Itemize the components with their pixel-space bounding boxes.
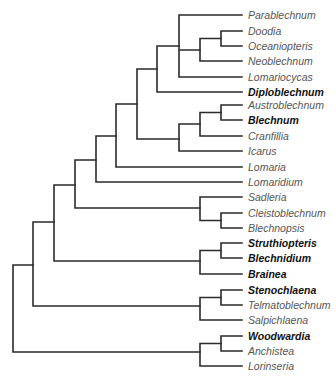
taxon-label-brainea: Brainea xyxy=(248,268,287,280)
branch-stenochlaena-telmatoblechnum xyxy=(221,290,242,305)
taxon-label-blechnidium: Blechnidium xyxy=(248,252,311,264)
taxon-label-neoblechnum: Neoblechnum xyxy=(248,55,313,67)
branch-icarus xyxy=(179,124,242,151)
tree-branches xyxy=(13,15,242,366)
taxon-label-cleistoblechnum: Cleistoblechnum xyxy=(248,207,326,219)
taxon-label-lorinseria: Lorinseria xyxy=(248,360,294,372)
taxon-label-stenochlaena: Stenochlaena xyxy=(248,284,316,296)
taxon-label-sadleria: Sadleria xyxy=(248,191,287,203)
taxon-label-salpichlaena: Salpichlaena xyxy=(248,314,308,326)
taxon-label-lomariocycas: Lomariocycas xyxy=(248,71,313,83)
taxon-label-austroblechnum: Austroblechnum xyxy=(248,99,324,111)
branch-doodia-oceaniopteris xyxy=(221,31,242,46)
taxon-label-parablechnum: Parablechnum xyxy=(248,9,316,21)
branch-node-33 xyxy=(33,222,200,306)
branch-node-54 xyxy=(54,185,200,261)
branch-lomaridium xyxy=(96,136,242,182)
taxon-label-oceaniopteris: Oceaniopteris xyxy=(248,40,313,52)
branch-woodwardia-anchistea xyxy=(221,336,242,351)
branch-cleistoblechnum-blechnopsis xyxy=(221,213,242,228)
branch-austroblechnum-blechnum xyxy=(221,105,242,120)
taxon-label-cranfillia: Cranfillia xyxy=(248,130,289,142)
taxon-label-doodia: Doodia xyxy=(248,25,281,37)
taxon-label-telmatoblechnum: Telmatoblechnum xyxy=(248,299,331,311)
taxon-label-lomaria: Lomaria xyxy=(248,161,286,173)
branch-root xyxy=(13,265,200,352)
taxon-label-diploblechnum: Diploblechnum xyxy=(248,86,324,98)
taxon-label-woodwardia: Woodwardia xyxy=(248,330,310,342)
taxon-label-blechnum: Blechnum xyxy=(248,114,299,126)
taxon-label-struthiopteris: Struthiopteris xyxy=(248,237,317,249)
taxon-label-lomaridium: Lomaridium xyxy=(248,176,303,188)
taxon-label-anchistea: Anchistea xyxy=(248,345,294,357)
branch-node-137 xyxy=(137,69,179,139)
branch-struthiopteris-blechnidium xyxy=(221,243,242,258)
taxon-label-blechnopsis: Blechnopsis xyxy=(248,222,305,234)
taxon-label-icarus: Icarus xyxy=(248,145,277,157)
